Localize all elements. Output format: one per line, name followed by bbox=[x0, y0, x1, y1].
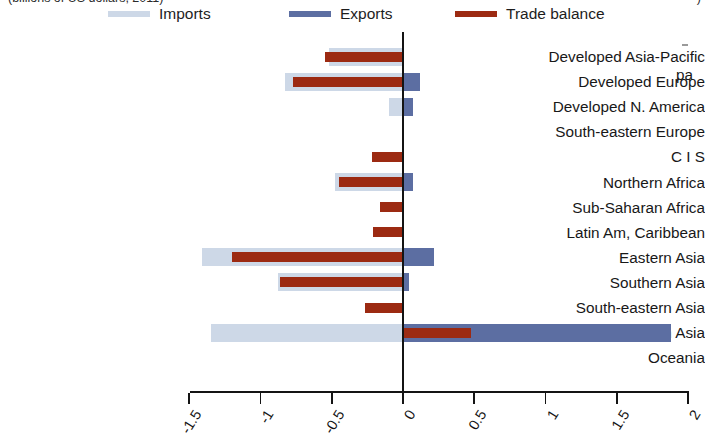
category-label: Developed Asia-Pacific bbox=[492, 44, 705, 69]
bar-exports bbox=[403, 173, 413, 191]
chart-legend: Imports Exports Trade balance bbox=[0, 4, 705, 28]
category-label: Northern Africa bbox=[492, 170, 705, 195]
bar-trade-balance bbox=[373, 227, 403, 237]
bar-trade-balance bbox=[372, 152, 403, 162]
bar-row: Developed N. America bbox=[0, 94, 705, 119]
category-label: Southern Asia bbox=[492, 270, 705, 295]
bar-row: Developed Europe bbox=[0, 69, 705, 94]
bar-row: C I S bbox=[0, 144, 705, 169]
bar-trade-balance bbox=[403, 328, 471, 338]
x-axis-tick-label: 0.5 bbox=[457, 407, 490, 446]
bar-row: Oceania bbox=[0, 345, 705, 370]
category-label: Latin Am, Caribbean bbox=[492, 220, 705, 245]
plot-area: Developed Asia-PacificDeveloped EuropeDe… bbox=[0, 32, 705, 392]
x-axis-tick-label: -1.5 bbox=[172, 407, 205, 446]
x-axis-tick bbox=[545, 393, 547, 404]
x-axis-tick-label: 1.5 bbox=[600, 407, 633, 446]
x-axis-tick-label: 2 bbox=[671, 407, 704, 446]
legend-item-imports: Imports bbox=[108, 5, 211, 23]
category-label: South-eastern Asia bbox=[492, 295, 705, 320]
category-label: C I S bbox=[492, 144, 705, 169]
bar-row: Developed Asia-Pacific bbox=[0, 44, 705, 69]
legend-swatch-exports bbox=[289, 11, 331, 17]
legend-swatch-trade-balance bbox=[455, 11, 497, 17]
category-label: Sub-Saharan Africa bbox=[492, 195, 705, 220]
bar-row: Western Asia bbox=[0, 320, 705, 345]
bar-row: Northern Africa bbox=[0, 170, 705, 195]
bar-row: South-eastern Europe bbox=[0, 119, 705, 144]
x-axis-tick-label: -1 bbox=[243, 407, 276, 446]
legend-label-trade-balance: Trade balance bbox=[506, 5, 605, 23]
legend-label-imports: Imports bbox=[159, 5, 211, 23]
category-label: Oceania bbox=[492, 345, 705, 370]
legend-item-exports: Exports bbox=[289, 5, 393, 23]
x-axis-tick bbox=[188, 393, 190, 404]
bar-row: Southern Asia bbox=[0, 270, 705, 295]
bar-imports bbox=[389, 98, 403, 116]
x-axis-tick-label: 1 bbox=[528, 407, 561, 446]
x-axis-tick bbox=[616, 393, 618, 404]
bar-row: South-eastern Asia bbox=[0, 295, 705, 320]
bar-trade-balance bbox=[365, 303, 403, 313]
x-axis-tick-label: -0.5 bbox=[315, 407, 348, 446]
bar-exports bbox=[403, 73, 420, 91]
category-label: Eastern Asia bbox=[492, 245, 705, 270]
category-label: Developed N. America bbox=[492, 94, 705, 119]
bar-row: Sub-Saharan Africa bbox=[0, 195, 705, 220]
legend-swatch-imports bbox=[108, 11, 150, 17]
bar-row: Eastern Asia bbox=[0, 245, 705, 270]
bar-trade-balance bbox=[339, 177, 403, 187]
category-label: South-eastern Europe bbox=[492, 119, 705, 144]
bar-trade-balance bbox=[232, 252, 403, 262]
bar-trade-balance bbox=[325, 52, 403, 62]
x-axis-tick bbox=[473, 393, 475, 404]
zero-axis-line bbox=[402, 32, 404, 392]
legend-item-trade-balance: Trade balance bbox=[455, 5, 605, 23]
category-label: Developed Europe bbox=[492, 69, 705, 94]
x-axis-tick bbox=[687, 393, 689, 404]
bar-row: Latin Am, Caribbean bbox=[0, 220, 705, 245]
bar-trade-balance bbox=[280, 277, 403, 287]
x-axis-tick bbox=[331, 393, 333, 404]
bar-trade-balance bbox=[293, 77, 403, 87]
bar-rows: Developed Asia-PacificDeveloped EuropeDe… bbox=[0, 32, 705, 392]
x-axis-tick bbox=[402, 393, 404, 404]
bar-exports bbox=[403, 98, 413, 116]
x-axis-line bbox=[190, 391, 689, 393]
bar-exports bbox=[403, 248, 434, 266]
legend-label-exports: Exports bbox=[340, 5, 393, 23]
bar-imports bbox=[211, 324, 403, 342]
x-axis-tick-label: 0 bbox=[386, 407, 419, 446]
bar-trade-balance bbox=[380, 202, 403, 212]
x-axis-tick bbox=[260, 393, 262, 404]
x-axis: -1.5-1-0.500.511.52 bbox=[0, 391, 705, 448]
